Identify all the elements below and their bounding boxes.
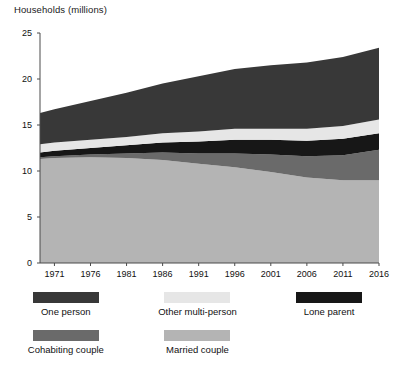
plot-area: 0510152025197119761981198619911996200120… xyxy=(0,0,395,300)
y-tick-label: 0 xyxy=(27,258,32,268)
legend-spacer xyxy=(263,330,395,364)
legend-label-cohabiting-couple: Cohabiting couple xyxy=(0,344,132,356)
legend-swatch-lone-parent xyxy=(296,292,362,303)
legend-label-other-multi-person: Other multi-person xyxy=(132,306,264,318)
x-tick-label: 2016 xyxy=(369,269,389,279)
y-tick-label: 10 xyxy=(22,166,32,176)
x-tick-label: 1976 xyxy=(80,269,100,279)
legend-label-married-couple: Married couple xyxy=(132,344,264,356)
legend-row-2: Cohabiting couple Married couple xyxy=(0,330,395,364)
chart-legend: One person Other multi-person Lone paren… xyxy=(0,292,395,368)
legend-item-other-multi-person[interactable]: Other multi-person xyxy=(132,292,264,326)
legend-swatch-one-person xyxy=(33,292,99,303)
y-tick-label: 25 xyxy=(22,28,32,38)
x-tick-label: 1991 xyxy=(189,269,209,279)
legend-label-one-person: One person xyxy=(0,306,132,318)
y-tick-label: 5 xyxy=(27,212,32,222)
stacked-area-chart: Households (millions) 051015202519711976… xyxy=(0,0,395,368)
legend-item-married-couple[interactable]: Married couple xyxy=(132,330,264,364)
x-tick-label: 2011 xyxy=(333,269,352,279)
y-tick-label: 20 xyxy=(22,74,32,84)
legend-swatch-cohabiting-couple xyxy=(33,330,99,341)
x-tick-label: 1981 xyxy=(117,269,137,279)
legend-row-1: One person Other multi-person Lone paren… xyxy=(0,292,395,326)
legend-swatch-other-multi-person xyxy=(164,292,230,303)
legend-swatch-married-couple xyxy=(164,330,230,341)
legend-label-lone-parent: Lone parent xyxy=(263,306,395,318)
legend-item-one-person[interactable]: One person xyxy=(0,292,132,326)
x-tick-label: 2001 xyxy=(261,269,281,279)
x-tick-label: 1971 xyxy=(44,269,64,279)
y-tick-label: 15 xyxy=(22,120,32,130)
chart-svg: 0510152025197119761981198619911996200120… xyxy=(0,0,395,300)
x-tick-label: 2006 xyxy=(297,269,317,279)
legend-item-cohabiting-couple[interactable]: Cohabiting couple xyxy=(0,330,132,364)
legend-item-lone-parent[interactable]: Lone parent xyxy=(263,292,395,326)
x-tick-label: 1986 xyxy=(153,269,173,279)
x-tick-label: 1996 xyxy=(225,269,245,279)
